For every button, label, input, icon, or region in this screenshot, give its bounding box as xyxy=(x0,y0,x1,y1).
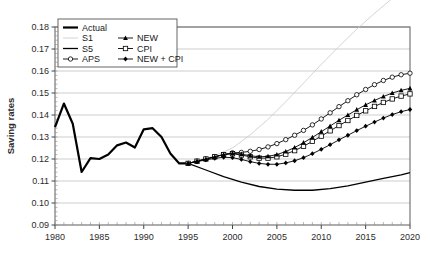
data-point-marker xyxy=(337,137,341,142)
y-tick-label: 0.17 xyxy=(31,44,49,54)
legend-label: APS xyxy=(82,54,100,64)
y-axis-ticks: 0.090.100.110.120.130.140.150.160.170.18 xyxy=(31,22,57,230)
data-point-marker xyxy=(337,123,341,127)
data-point-marker xyxy=(355,128,359,133)
legend-label: NEW xyxy=(137,33,159,43)
data-point-marker xyxy=(363,124,367,129)
data-point-marker xyxy=(381,100,385,104)
x-tick-label: 1990 xyxy=(134,232,154,242)
data-point-marker xyxy=(372,104,376,108)
data-point-marker xyxy=(319,117,323,121)
series-line xyxy=(188,0,410,163)
x-tick-label: 2010 xyxy=(311,232,331,242)
y-tick-label: 0.09 xyxy=(31,220,49,230)
chart-legend: ActualS1S5APSNEWCPINEW + CPI xyxy=(58,19,183,67)
data-point-marker xyxy=(346,99,350,103)
data-point-marker xyxy=(284,161,288,166)
data-point-marker xyxy=(310,123,314,127)
data-point-marker xyxy=(363,87,367,91)
y-tick-label: 0.15 xyxy=(31,88,49,98)
data-point-marker xyxy=(68,57,72,61)
data-point-marker xyxy=(408,71,412,75)
data-point-marker xyxy=(363,109,367,113)
data-point-marker xyxy=(408,86,413,91)
data-point-marker xyxy=(399,94,403,98)
savings-rates-chart: 0.090.100.110.120.130.140.150.160.170.18… xyxy=(0,0,430,270)
x-tick-label: 1985 xyxy=(89,232,109,242)
data-point-marker xyxy=(275,162,279,167)
data-point-marker xyxy=(123,46,127,50)
y-tick-label: 0.14 xyxy=(31,110,49,120)
data-point-marker xyxy=(390,112,394,117)
x-tick-label: 1980 xyxy=(45,232,65,242)
series-aps xyxy=(186,71,412,166)
data-point-marker xyxy=(257,161,261,166)
data-point-marker xyxy=(266,162,270,167)
data-point-marker xyxy=(292,133,296,137)
data-point-marker xyxy=(239,157,243,162)
data-point-marker xyxy=(310,139,314,143)
data-point-marker xyxy=(319,129,324,134)
data-point-marker xyxy=(408,107,412,112)
y-tick-label: 0.10 xyxy=(31,198,49,208)
data-point-marker xyxy=(328,142,332,147)
data-point-marker xyxy=(399,109,403,114)
legend-label: Actual xyxy=(82,23,107,33)
chart-canvas: 0.090.100.110.120.130.140.150.160.170.18… xyxy=(0,0,430,270)
data-point-marker xyxy=(310,151,314,156)
data-point-marker xyxy=(301,128,305,132)
x-tick-label: 2000 xyxy=(222,232,242,242)
data-point-marker xyxy=(372,120,376,125)
legend-label: CPI xyxy=(137,44,152,54)
data-point-marker xyxy=(328,111,332,115)
data-point-marker xyxy=(319,147,323,152)
data-point-marker xyxy=(319,134,323,138)
data-point-marker xyxy=(337,118,342,123)
data-point-marker xyxy=(284,137,288,141)
series-line xyxy=(188,163,410,190)
data-point-marker xyxy=(354,107,359,112)
data-point-marker xyxy=(301,140,306,145)
x-tick-label: 2015 xyxy=(356,232,376,242)
data-point-marker xyxy=(275,141,279,145)
data-point-marker xyxy=(257,147,261,151)
data-point-marker xyxy=(266,145,270,149)
data-point-marker xyxy=(381,78,385,82)
y-tick-label: 0.18 xyxy=(31,22,49,32)
data-point-marker xyxy=(399,73,403,77)
data-point-marker xyxy=(390,97,394,101)
x-tick-label: 2020 xyxy=(400,232,420,242)
data-point-marker xyxy=(390,75,394,79)
series-cpi xyxy=(186,92,412,166)
data-point-marker xyxy=(301,155,305,160)
series-s5 xyxy=(188,163,410,190)
data-point-marker xyxy=(248,159,252,164)
legend-label: NEW + CPI xyxy=(137,54,183,64)
y-tick-label: 0.13 xyxy=(31,132,49,142)
x-tick-label: 2005 xyxy=(267,232,287,242)
x-tick-label: 1995 xyxy=(178,232,198,242)
data-point-marker xyxy=(292,145,297,150)
data-point-marker xyxy=(408,92,412,96)
y-axis-label: Saving rates xyxy=(5,98,16,155)
data-point-marker xyxy=(355,93,359,97)
data-point-marker xyxy=(248,149,252,153)
data-point-marker xyxy=(363,102,368,107)
series-s1 xyxy=(188,0,410,163)
legend-label: S5 xyxy=(82,44,93,54)
y-tick-label: 0.16 xyxy=(31,66,49,76)
series-line xyxy=(188,73,410,163)
y-tick-label: 0.11 xyxy=(32,176,49,186)
data-point-marker xyxy=(372,82,376,86)
data-point-marker xyxy=(337,104,341,108)
y-tick-label: 0.12 xyxy=(31,154,49,164)
data-point-marker xyxy=(346,118,350,122)
data-point-marker xyxy=(328,129,332,133)
series-line xyxy=(55,104,188,172)
series-actual xyxy=(55,104,188,172)
data-point-marker xyxy=(381,116,385,121)
data-point-marker xyxy=(328,123,333,128)
legend-label: S1 xyxy=(82,33,93,43)
data-point-marker xyxy=(355,113,359,117)
